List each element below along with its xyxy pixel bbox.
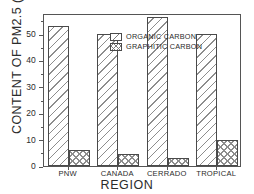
legend-item-graphitic-carbon: GRAPHITIC CARBON xyxy=(110,42,202,51)
bar-cerrado-graphitic-carbon xyxy=(168,158,189,166)
bar-chart-figure: CONTENT OF PM2.5 (%) 01020304050 ORGANIC… xyxy=(0,0,254,194)
x-tick-mark xyxy=(68,167,69,170)
legend-swatch-organic-carbon-icon xyxy=(110,33,122,41)
bar-pnw-organic-carbon xyxy=(48,26,69,166)
y-tick-label: 50 xyxy=(26,29,36,39)
legend-swatch-graphitic-carbon-icon xyxy=(110,43,122,51)
y-tick-label: 30 xyxy=(26,82,36,92)
x-tick-label-tropical: TROPICAL xyxy=(176,169,254,178)
legend-label-organic-carbon: ORGANIC CARBON xyxy=(126,32,196,41)
y-tick-label: 40 xyxy=(26,55,36,65)
bar-pnw-graphitic-carbon xyxy=(69,150,90,166)
x-tick-mark xyxy=(117,167,118,170)
bar-tropical-organic-carbon xyxy=(196,34,217,166)
bar-canada-organic-carbon xyxy=(97,34,118,166)
y-tick-label: 20 xyxy=(26,108,36,118)
chart-legend: ORGANIC CARBON GRAPHITIC CARBON xyxy=(110,32,202,51)
legend-label-graphitic-carbon: GRAPHITIC CARBON xyxy=(126,42,202,51)
legend-item-organic-carbon: ORGANIC CARBON xyxy=(110,32,202,41)
x-tick-mark xyxy=(167,167,168,170)
y-tick-label: 10 xyxy=(26,135,36,145)
bar-tropical-graphitic-carbon xyxy=(217,140,238,166)
x-axis-title: REGION xyxy=(0,178,254,192)
x-tick-mark xyxy=(216,167,217,170)
bar-canada-graphitic-carbon xyxy=(118,154,139,166)
plot-area: ORGANIC CARBON GRAPHITIC CARBON xyxy=(43,14,241,167)
y-axis-title: CONTENT OF PM2.5 (%) xyxy=(10,0,24,134)
